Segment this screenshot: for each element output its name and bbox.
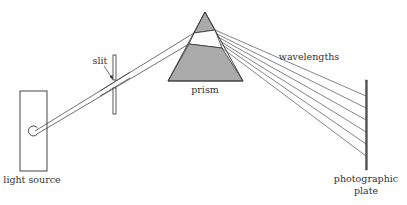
spectrometer-diagram: light source slit prism wavelengths phot… [0,0,407,205]
label-slit: slit [93,55,108,66]
ray-2 [217,34,366,108]
slit-lower-bar [113,88,116,114]
dispersed-rays [215,30,366,156]
bulb-icon [28,126,37,136]
label-wavelengths: wavelengths [279,51,340,62]
slit [113,55,116,114]
prism [168,12,243,81]
light-source-box [20,91,47,171]
slit-pointer [104,66,113,80]
arrow-head-icon [110,75,114,80]
ray-1 [215,30,366,96]
photographic-plate [366,80,368,170]
label-photographic: photographic [334,173,398,184]
label-prism: prism [191,84,219,95]
label-plate: plate [354,185,379,196]
light-source [20,91,47,171]
incoming-beam [35,33,194,134]
prism-top-shaded [194,12,215,33]
ray-6 [222,48,366,156]
label-light-source: light source [3,174,61,185]
slit-upper-bar [113,55,116,80]
